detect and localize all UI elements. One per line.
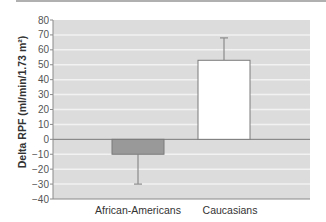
x-category-label: African-Americans: [95, 204, 181, 216]
y-tick-label: 80: [38, 15, 50, 26]
y-tick-label: −10: [32, 149, 49, 160]
y-tick-label: 40: [38, 74, 50, 85]
y-tick-label: 20: [38, 104, 50, 115]
y-tick-label: 30: [38, 89, 50, 100]
y-axis-ticks: 80706050403020100−10−20−30−40: [32, 15, 53, 205]
y-tick-label: 70: [38, 29, 50, 40]
x-axis-categories: African-AmericansCaucasians: [95, 204, 257, 216]
y-tick-label: 0: [43, 134, 49, 145]
y-tick-label: −20: [32, 164, 49, 175]
y-tick-label: 10: [38, 119, 50, 130]
plot-area: [53, 20, 310, 199]
y-tick-label: −30: [32, 179, 49, 190]
bar-chart: 80706050403020100−10−20−30−40 African-Am…: [0, 0, 326, 222]
y-tick-label: 50: [38, 59, 50, 70]
y-tick-label: 60: [38, 44, 50, 55]
bar-caucasians: [198, 60, 250, 139]
bar-african-americans: [112, 139, 164, 154]
y-tick-label: −40: [32, 194, 49, 205]
x-category-label: Caucasians: [203, 204, 258, 216]
